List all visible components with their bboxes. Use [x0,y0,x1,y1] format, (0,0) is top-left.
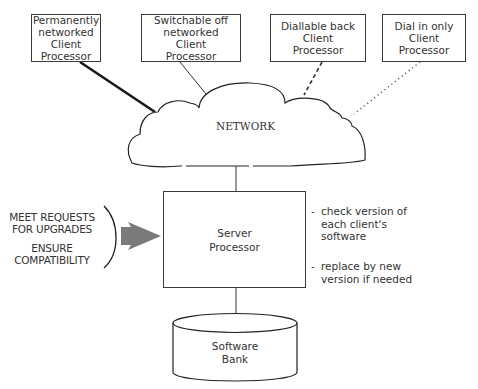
input-label: COMPATIBILITY [4,254,100,266]
task-bullet: - [311,205,321,243]
bank-label: Software [173,340,297,353]
client-label: networked [154,26,228,38]
client-label: Switchable off [154,14,228,26]
client-box-dial-in: Dial in only Client Processor [382,14,466,62]
task-replace-version: - replace by new version if needed [311,260,412,285]
task-bullet: - [311,260,321,285]
server-label: Processor [209,240,260,254]
server-label: Server [209,226,260,240]
input-label: ENSURE [4,242,100,254]
task-text: version if needed [321,273,412,286]
task-text: replace by new [321,260,412,273]
input-label: MEET REQUESTS [4,211,100,223]
connector-permanent [80,62,155,112]
client-label: Processor [154,50,228,62]
connector-dial-in [354,62,420,114]
client-label: Permanently [33,14,99,26]
input-upgrades: MEET REQUESTS FOR UPGRADES [4,211,100,235]
task-text: each client's [321,218,407,231]
client-label: Processor [33,50,99,62]
bank-label: Bank [173,353,297,366]
connector-switchable [180,62,206,94]
task-text: software [321,230,407,243]
client-box-permanent: Permanently networked Client Processor [31,14,101,62]
client-label: networked [33,26,99,38]
task-text: check version of [321,205,407,218]
client-label: Processor [395,44,454,56]
client-box-diallable: Diallable back Client Processor [270,14,366,62]
server-box: Server Processor [163,191,306,288]
arrow-right-icon [121,222,161,250]
client-label: Client [395,32,454,44]
input-compatibility: ENSURE COMPATIBILITY [4,242,100,266]
client-label: Client [281,32,355,44]
connector-diallable [304,62,322,95]
client-label: Processor [281,44,355,56]
client-label: Diallable back [281,20,355,32]
network-label: NETWORK [216,120,275,132]
client-label: Dial in only [395,20,454,32]
client-label: Client [154,38,228,50]
bracket-icon [104,206,116,268]
software-bank-label: Software Bank [173,340,297,366]
client-box-switchable: Switchable off networked Client Processo… [141,14,241,62]
input-label: FOR UPGRADES [4,223,100,235]
client-label: Client [33,38,99,50]
task-check-version: - check version of each client's softwar… [311,205,407,243]
